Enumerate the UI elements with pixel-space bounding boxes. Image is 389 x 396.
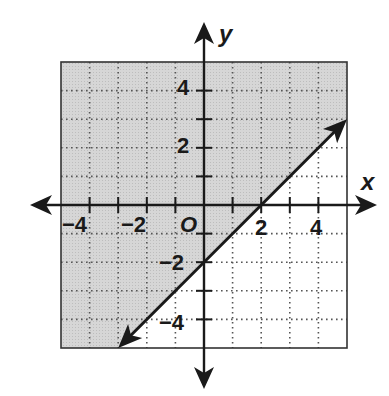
x-tick-label-neg4: −4: [62, 212, 88, 237]
x-axis-label: x: [359, 168, 376, 195]
y-axis-label: y: [218, 20, 234, 47]
x-tick-label-4: 4: [310, 215, 323, 240]
x-tick-label-neg2: −2: [121, 212, 146, 237]
coordinate-graph: y x O −4 −2 2 4 4 2 −2 −4: [0, 0, 389, 396]
x-tick-label-2: 2: [255, 215, 267, 240]
origin-label: O: [180, 212, 197, 237]
y-tick-label-4: 4: [177, 75, 190, 100]
y-tick-label-neg4: −4: [159, 310, 185, 335]
y-tick-label-2: 2: [177, 133, 189, 158]
y-tick-label-neg2: −2: [159, 250, 184, 275]
